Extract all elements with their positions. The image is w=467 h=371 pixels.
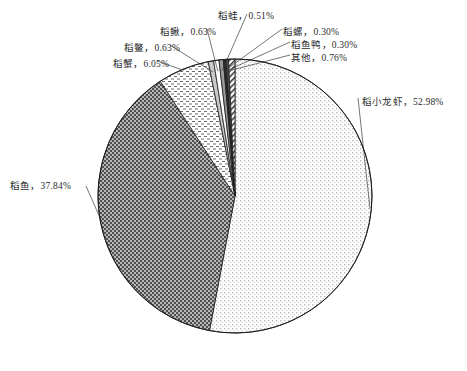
- slice-label-daowa: 稻蛙，0.51%: [218, 8, 274, 22]
- slice-label-daobie: 稻鳖，0.63%: [124, 40, 180, 54]
- slice-label-daoluo: 稻螺，0.30%: [283, 24, 339, 38]
- pie-chart-figure: 稻小龙虾，52.98% 稻鱼，37.84% 稻蟹，6.05% 稻鳖，0.63% …: [0, 0, 467, 371]
- slice-label-daoyu: 稻鱼，37.84%: [10, 178, 71, 192]
- pie-slices: [98, 59, 372, 333]
- slice-label-qita: 其他，0.76%: [291, 50, 347, 64]
- slice-label-daoxie: 稻蟹，6.05%: [113, 56, 169, 70]
- slice-label-daoxiaolongxia: 稻小龙虾，52.98%: [362, 94, 444, 108]
- slice-label-daoyuya: 稻鱼鸭，0.30%: [291, 37, 357, 51]
- slice-label-daoqiu: 稻鳅，0.63%: [160, 24, 216, 38]
